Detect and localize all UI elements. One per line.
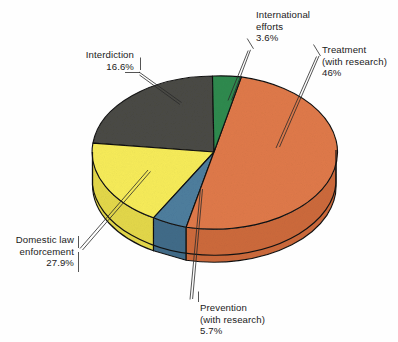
- label-treatment-value: 46%: [322, 67, 342, 78]
- label-international-efforts-line1: International: [256, 9, 310, 20]
- label-prevention-line2: (with research): [200, 314, 265, 325]
- label-prevention-line1: Prevention: [200, 302, 247, 313]
- label-interdiction-line1: Interdiction: [86, 49, 134, 60]
- label-domestic-law-enforcement-value: 27.9%: [46, 257, 74, 268]
- label-domestic-law-enforcement-line1: Domestic law: [16, 234, 74, 245]
- label-prevention-value: 5.7%: [200, 325, 223, 336]
- label-international-efforts-value: 3.6%: [256, 32, 279, 43]
- label-domestic-law-enforcement-line2: enforcement: [20, 246, 75, 257]
- label-treatment-line1: Treatment: [322, 44, 366, 55]
- pie-chart-svg: International efforts 3.6% Treatment (wi…: [0, 0, 398, 342]
- pie-chart-figure: International efforts 3.6% Treatment (wi…: [0, 0, 398, 342]
- label-international-efforts-line2: efforts: [256, 21, 283, 32]
- label-treatment-line2: (with research): [322, 56, 387, 67]
- label-interdiction-value: 16.6%: [106, 61, 134, 72]
